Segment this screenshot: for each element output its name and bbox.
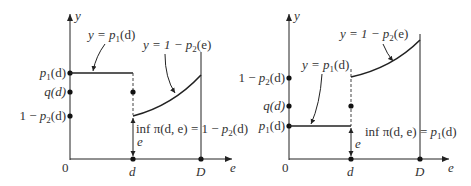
right-curve bbox=[351, 40, 420, 77]
left-d-point bbox=[130, 156, 135, 161]
right-q-at-d-point bbox=[348, 103, 353, 108]
right-flat-annotation: y = p1(d) bbox=[300, 57, 349, 74]
left-q-at-d-point bbox=[130, 89, 135, 94]
left-flat-annotation: y = p1(d) bbox=[86, 27, 135, 44]
left-curve bbox=[133, 75, 201, 116]
right-1mp2-point bbox=[286, 75, 291, 80]
right-origin-label: 0 bbox=[282, 160, 289, 175]
right-d-label: d bbox=[347, 164, 354, 179]
right-inf-annotation: inf π(d, e) = p1(d) bbox=[365, 124, 457, 141]
right-p1-label: p1(d) bbox=[258, 118, 285, 135]
left-y-axis-label: y bbox=[73, 8, 81, 23]
left-origin-label: 0 bbox=[62, 160, 69, 175]
right-q-label: q(d) bbox=[263, 98, 285, 113]
right-gap-label: e bbox=[355, 136, 361, 151]
left-q-label: q(d) bbox=[44, 84, 66, 99]
diagram-canvas: y e 0 d D p1(d) q(d) 1 − p2(d) e bbox=[0, 0, 471, 186]
left-figure: y e 0 d D p1(d) q(d) 1 − p2(d) e bbox=[19, 8, 248, 179]
left-D-label: D bbox=[195, 164, 206, 179]
right-curve-annotation: y = 1 − p2(e) bbox=[338, 26, 408, 43]
left-flat-pointer bbox=[93, 44, 105, 71]
right-figure: y e 0 d D 1 − p2(d) q(d) p1(d) e y = p1(… bbox=[238, 8, 456, 179]
right-y-axis-label: y bbox=[292, 8, 300, 23]
right-curve-pointer bbox=[383, 44, 393, 61]
left-1mp2-point bbox=[67, 113, 72, 118]
left-gap-label: e bbox=[137, 134, 143, 149]
right-D-label: D bbox=[414, 164, 425, 179]
right-1mp2-label: 1 − p2(d) bbox=[238, 70, 285, 87]
left-q-point bbox=[67, 89, 72, 94]
right-x-axis-label: e bbox=[448, 160, 454, 175]
right-flat-pointer bbox=[311, 74, 322, 124]
left-inf-annotation: inf π(d, e) = 1 − p2(d) bbox=[136, 121, 248, 138]
left-1mp2-label: 1 − p2(d) bbox=[19, 108, 66, 125]
right-d-point bbox=[348, 156, 353, 161]
left-d-label: d bbox=[129, 164, 136, 179]
left-curve-pointer bbox=[165, 54, 175, 93]
left-curve-annotation: y = 1 − p2(e) bbox=[141, 37, 211, 54]
left-p1-label: p1(d) bbox=[39, 65, 66, 82]
right-q-point bbox=[286, 103, 291, 108]
left-x-axis-label: e bbox=[230, 160, 236, 175]
